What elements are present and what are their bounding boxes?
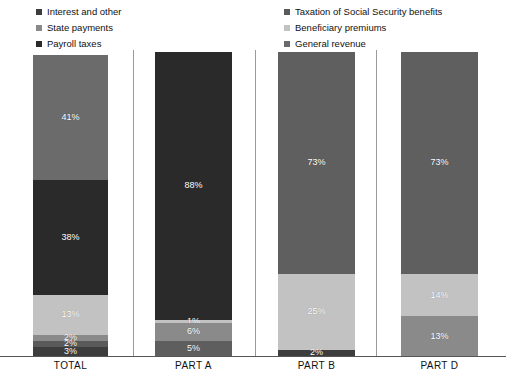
bar-segment-label: 88% bbox=[184, 181, 202, 190]
bar-segment[interactable]: 73% bbox=[401, 52, 478, 274]
legend-item-label: Interest and other bbox=[47, 7, 121, 17]
bar-segment[interactable]: 25% bbox=[278, 274, 355, 350]
bar-segment[interactable]: 14% bbox=[401, 274, 478, 317]
bar-segment-label: 13% bbox=[430, 332, 448, 341]
bar-segment[interactable]: 3% bbox=[33, 347, 108, 356]
legend-swatch-icon bbox=[36, 9, 42, 15]
legend-swatch-icon bbox=[284, 41, 290, 47]
stacked-bar-part-b[interactable]: 73%25%2% bbox=[278, 52, 355, 356]
bar-segment[interactable]: 38% bbox=[33, 180, 108, 296]
x-tick-label: PART A bbox=[155, 360, 232, 371]
legend-item: Payroll taxes bbox=[36, 36, 121, 51]
legend-item: Interest and other bbox=[36, 4, 121, 19]
legend-swatch-icon bbox=[36, 41, 42, 47]
bar-segment[interactable]: 88% bbox=[155, 52, 232, 320]
panel-divider bbox=[255, 50, 256, 356]
plot-area: 41%38%13%2%2%3% 88%1%6%5% 73%25%2% 73%14… bbox=[0, 50, 506, 358]
x-tick-label: PART D bbox=[401, 360, 478, 371]
panel-divider bbox=[133, 50, 134, 356]
bar-segment[interactable]: 13% bbox=[33, 295, 108, 335]
legend-item-label: Taxation of Social Security benefits bbox=[295, 7, 442, 17]
bar-segment-label: 38% bbox=[61, 233, 79, 242]
bar-segment-label: 41% bbox=[61, 113, 79, 122]
bar-segment-label: 13% bbox=[61, 310, 79, 319]
bar-segment-label: 73% bbox=[307, 158, 325, 167]
chart-page: Interest and other State payments Payrol… bbox=[0, 0, 506, 380]
bar-segment[interactable]: 6% bbox=[155, 323, 232, 341]
bar-segment-label: 14% bbox=[430, 291, 448, 300]
bar-segment-label: 25% bbox=[307, 307, 325, 316]
legend-column-left: Interest and other State payments Payrol… bbox=[36, 4, 121, 52]
legend-item: State payments bbox=[36, 20, 121, 35]
x-tick-label: TOTAL bbox=[33, 360, 108, 371]
bar-segment[interactable]: 41% bbox=[33, 55, 108, 180]
stacked-bar-part-d[interactable]: 73%14%13% bbox=[401, 52, 478, 356]
legend-swatch-icon bbox=[284, 9, 290, 15]
bar-segment-label: 5% bbox=[187, 344, 200, 353]
x-axis: TOTAL PART A PART B PART D bbox=[0, 360, 506, 380]
legend-item-label: Payroll taxes bbox=[47, 39, 101, 49]
legend-item-label: Beneficiary premiums bbox=[295, 23, 386, 33]
bar-segment[interactable]: 5% bbox=[155, 341, 232, 356]
legend-item-label: State payments bbox=[47, 23, 113, 33]
chart-legend: Interest and other State payments Payrol… bbox=[0, 0, 506, 50]
bar-segment[interactable]: 73% bbox=[278, 52, 355, 274]
stacked-bar-total[interactable]: 41%38%13%2%2%3% bbox=[33, 55, 108, 356]
bar-segment[interactable]: 13% bbox=[401, 316, 478, 356]
x-tick-label: PART B bbox=[278, 360, 355, 371]
legend-item-label: General revenue bbox=[295, 39, 366, 49]
stacked-bar-part-a[interactable]: 88%1%6%5% bbox=[155, 52, 232, 356]
legend-swatch-icon bbox=[36, 25, 42, 31]
legend-item: General revenue bbox=[284, 36, 442, 51]
bar-segment-label: 6% bbox=[187, 327, 200, 336]
bar-segment-label: 3% bbox=[64, 347, 77, 356]
axis-baseline bbox=[0, 356, 506, 357]
legend-swatch-icon bbox=[284, 25, 290, 31]
legend-item: Taxation of Social Security benefits bbox=[284, 4, 442, 19]
legend-item: Beneficiary premiums bbox=[284, 20, 442, 35]
panel-divider bbox=[376, 50, 377, 356]
bar-segment-label: 73% bbox=[430, 158, 448, 167]
legend-column-right: Taxation of Social Security benefits Ben… bbox=[284, 4, 442, 52]
